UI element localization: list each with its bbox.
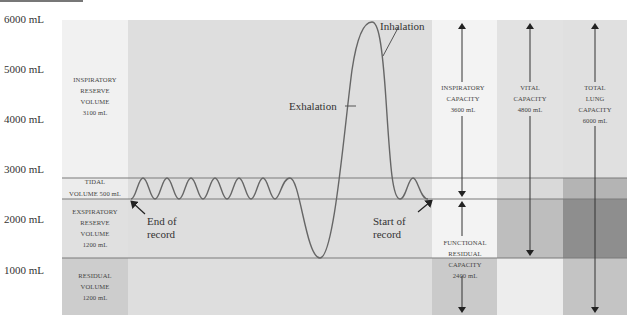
irv-label: INSPIRATORYRESERVE VOLUME3100 mL bbox=[62, 74, 128, 118]
vc-label: VITALCAPACITY 4800 mL bbox=[497, 82, 563, 115]
tv-label: TIDALVOLUME 500 mL bbox=[56, 176, 134, 200]
end-of-record-annotation: End ofrecord bbox=[147, 215, 177, 241]
trace-panel bbox=[128, 20, 432, 315]
erv-label: EXSPIRATORYRESERVE VOLUME1200 mL bbox=[56, 206, 134, 250]
rv-label: RESIDUALVOLUME 1200 mL bbox=[62, 270, 128, 303]
start-of-record-annotation: Start ofrecord bbox=[373, 215, 406, 241]
frc-label: FUNCTIONALRESIDUAL CAPACITY2400 mL bbox=[427, 237, 503, 281]
ic-panel bbox=[432, 20, 497, 258]
ic-label: INSPIRATORYCAPACITY 3600 mL bbox=[430, 82, 496, 115]
tlc-label: TOTALLUNG CAPACITY6000 mL bbox=[563, 82, 627, 126]
inhalation-annotation: Inhalation bbox=[380, 20, 425, 33]
exhalation-annotation: Exhalation bbox=[289, 100, 337, 113]
